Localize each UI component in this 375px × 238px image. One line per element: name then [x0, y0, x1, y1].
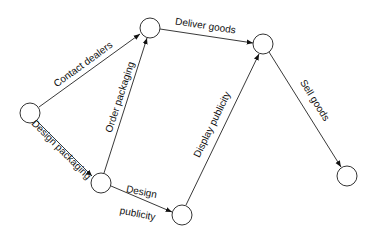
node-4	[91, 173, 111, 193]
label-design-publicity-line1: Design	[125, 183, 158, 200]
edge-sell-goods	[269, 52, 341, 167]
label-design-publicity-line2: publicity	[119, 205, 157, 223]
label-contact-dealers: Contact dealers	[51, 39, 114, 89]
label-sell-goods: Sell goods	[298, 77, 332, 122]
network-diagram: Contact dealers Design packaging Order p…	[0, 0, 375, 238]
node-3	[253, 34, 273, 54]
edge-display-publicity	[186, 54, 259, 205]
node-6	[337, 166, 357, 186]
node-5	[172, 205, 192, 225]
node-2	[140, 18, 160, 38]
label-design-packaging: Design packaging	[29, 118, 93, 182]
label-display-publicity: Display publicity	[191, 90, 232, 159]
